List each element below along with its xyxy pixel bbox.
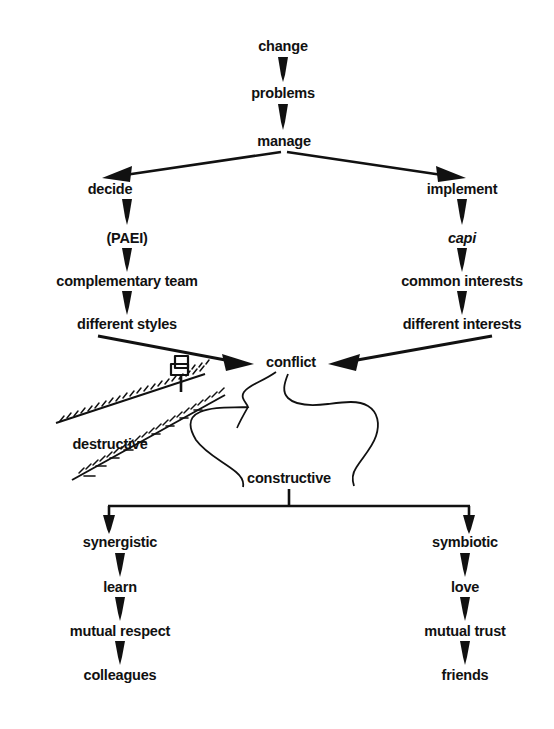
node-love: love bbox=[451, 580, 479, 595]
node-symbiotic: symbiotic bbox=[432, 535, 498, 550]
arrow-synergistic-to-learn bbox=[115, 553, 125, 577]
node-conflict: conflict bbox=[266, 355, 316, 370]
node-manage: manage bbox=[257, 134, 311, 149]
arrow-complementary-team-to-different-styles bbox=[122, 291, 132, 315]
destructive-road-upper-edge bbox=[56, 374, 205, 423]
arrow-change-to-problems bbox=[278, 57, 288, 82]
line-different-styles-to-conflict bbox=[98, 336, 236, 362]
node-mutual-respect: mutual respect bbox=[70, 624, 170, 639]
signpost-icon bbox=[171, 356, 188, 392]
arrow-problems-to-manage bbox=[278, 104, 288, 130]
label-constructive: constructive bbox=[247, 471, 331, 486]
node-decide: decide bbox=[88, 182, 133, 197]
line-different-interests-to-conflict bbox=[346, 336, 492, 362]
arrow-paei-to-complementary-team bbox=[122, 248, 132, 272]
arrowhead-decide bbox=[102, 166, 132, 182]
arrowhead-implement bbox=[436, 166, 466, 182]
arrow-mutual-trust-to-friends bbox=[460, 641, 470, 665]
arrow-symbiotic-to-love bbox=[460, 553, 470, 577]
arrow-common-interests-to-different-interests bbox=[457, 291, 467, 315]
diagram-canvas: change problems manage decide (PAEI) com… bbox=[0, 0, 554, 729]
arrowhead-conflict-right bbox=[328, 354, 360, 371]
node-learn: learn bbox=[103, 580, 137, 595]
arrowhead-synergistic bbox=[103, 515, 115, 534]
node-mutual-trust: mutual trust bbox=[424, 624, 505, 639]
node-colleagues: colleagues bbox=[84, 668, 157, 683]
arrowhead-symbiotic bbox=[463, 515, 475, 534]
arrow-capi-to-common-interests bbox=[457, 248, 467, 272]
node-different-interests: different interests bbox=[403, 317, 522, 332]
node-capi: capi bbox=[448, 231, 476, 246]
arrow-implement-to-capi bbox=[457, 199, 467, 225]
arrow-mutual-respect-to-colleagues bbox=[115, 641, 125, 665]
node-complementary-team: complementary team bbox=[56, 274, 197, 289]
node-implement: implement bbox=[427, 182, 498, 197]
arrowhead-conflict-left bbox=[222, 354, 254, 371]
node-common-interests: common interests bbox=[401, 274, 523, 289]
node-change: change bbox=[258, 39, 308, 54]
constructive-road-fork-stub bbox=[237, 407, 248, 428]
node-synergistic: synergistic bbox=[83, 535, 157, 550]
destructive-road-hatching bbox=[60, 360, 224, 473]
arrow-decide-to-paei bbox=[122, 199, 132, 225]
line-manage-to-implement bbox=[287, 152, 449, 176]
node-different-styles: different styles bbox=[77, 317, 177, 332]
node-problems: problems bbox=[251, 86, 315, 101]
label-destructive: destructive bbox=[72, 437, 147, 452]
line-manage-to-decide bbox=[118, 152, 281, 176]
arrow-love-to-mutual-trust bbox=[460, 597, 470, 621]
node-paei: (PAEI) bbox=[106, 231, 147, 246]
node-friends: friends bbox=[442, 668, 489, 683]
arrow-learn-to-mutual-respect bbox=[115, 597, 125, 621]
